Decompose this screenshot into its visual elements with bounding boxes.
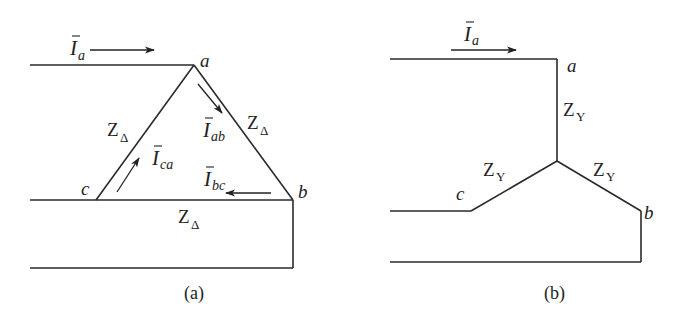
svg-text:I: I [463, 22, 472, 46]
Ica-sub: ca [160, 157, 173, 172]
svg-text:Z: Z [593, 159, 605, 180]
Ica-label: I ca [151, 146, 173, 172]
svg-text:a: a [472, 33, 479, 48]
svg-text:Δ: Δ [120, 130, 128, 145]
svg-text:Δ: Δ [191, 217, 199, 232]
caption-b: (b) [544, 283, 565, 304]
Ica-symbol: I [151, 146, 160, 170]
Ibc-symbol: I [203, 167, 212, 191]
Zdelta-ab-label: Z Δ [247, 112, 268, 138]
caption-a: (a) [184, 283, 204, 304]
Ia-label-b: I a [463, 22, 479, 48]
svg-text:Z: Z [107, 119, 119, 140]
Ia-symbol: I [69, 36, 78, 60]
ZY-a-label: Z Y [563, 99, 586, 124]
node-b-label: b [298, 181, 308, 202]
node-a-label: a [200, 50, 210, 71]
circuit-diagram: I a a b c I ab I bc I ca Z Δ Z Δ Z Δ (a) [0, 0, 681, 318]
Zdelta-bc-label: Z Δ [178, 206, 199, 232]
Ibc-label: I bc [203, 167, 226, 193]
Ibc-sub: bc [212, 178, 226, 193]
ZY-c-label: Z Y [483, 159, 506, 184]
svg-text:Z: Z [178, 206, 190, 227]
node-b-label-b: b [644, 202, 654, 223]
svg-text:Y: Y [606, 169, 616, 184]
Iab-symbol: I [202, 118, 211, 142]
Iab-sub: ab [211, 129, 225, 144]
Iab-label: I ab [202, 118, 225, 144]
arrow-Ica [117, 158, 139, 192]
node-c-label-b: c [456, 183, 465, 204]
svg-text:Y: Y [576, 109, 586, 124]
Ia-label-a: I a [69, 36, 85, 63]
svg-text:Y: Y [496, 169, 506, 184]
Zdelta-ca-label: Z Δ [107, 119, 128, 145]
Ia-sub: a [78, 48, 85, 63]
ZY-b-label: Z Y [593, 159, 616, 184]
svg-text:Z: Z [247, 112, 259, 133]
svg-text:Z: Z [483, 159, 495, 180]
node-c-label: c [81, 178, 90, 199]
node-a-label-b: a [567, 55, 577, 76]
svg-text:Δ: Δ [260, 123, 268, 138]
svg-text:Z: Z [563, 99, 575, 120]
